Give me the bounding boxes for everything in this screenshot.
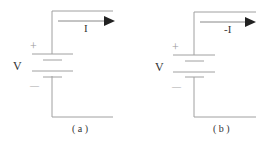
minus-label: — — [171, 81, 182, 91]
current-arrow-head-icon — [245, 17, 256, 27]
voltage-label: V — [13, 59, 22, 73]
panel-caption: ( a ) — [72, 123, 88, 135]
current-label: I — [84, 22, 88, 34]
current-label: -I — [224, 23, 232, 35]
panel-b: -I + — V ( b ) — [155, 12, 256, 135]
voltage-label: V — [155, 60, 164, 74]
plus-label: + — [30, 39, 37, 53]
plus-label: + — [172, 40, 179, 54]
panel-caption: ( b ) — [213, 123, 230, 135]
current-arrow-head-icon — [104, 16, 115, 26]
panel-a: I + — V ( a ) — [13, 11, 115, 135]
minus-label: — — [29, 80, 40, 90]
circuit-diagram: I + — V ( a ) -I + — V ( b ) — [0, 0, 270, 141]
